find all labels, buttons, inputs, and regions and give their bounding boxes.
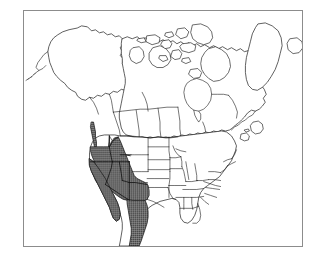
range-coastal-northwest-strip [91,122,97,147]
alaska-coast-detail [36,52,48,71]
map-frame [23,10,303,247]
aleutian-islands-chain [26,70,39,80]
nova-scotia-island [240,133,249,141]
border-yukon-nwt [109,94,113,112]
greenland-landmass [245,23,282,90]
somerset-island [171,50,182,60]
border-sc-nc [205,193,217,197]
figure-container [0,0,319,259]
axel-heiberg-island [176,28,189,39]
alaska-landmass [48,26,129,100]
prince-edward-island [244,129,249,132]
range-northwest-mexico [127,199,148,246]
border-nc-va [206,187,220,189]
border-yukon-bc [90,97,99,114]
border-ga-sc [201,197,209,204]
iceland-island [287,38,302,54]
newfoundland-island [250,121,263,134]
map-svg [24,11,302,246]
ellesmere-island [191,24,213,45]
arctic-islet-a [165,32,174,38]
